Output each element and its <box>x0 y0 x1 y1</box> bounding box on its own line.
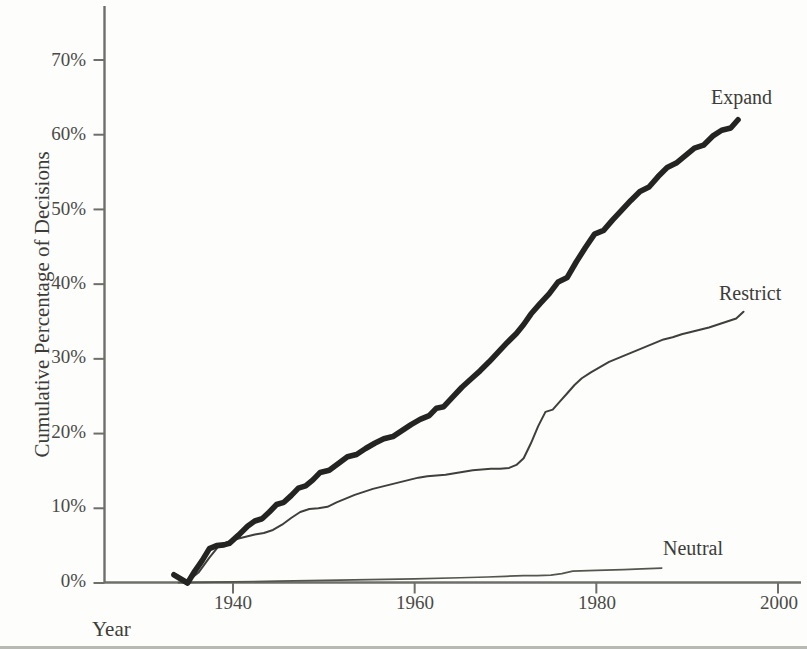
chart-page: Cumulative Percentage of Decisions Year … <box>0 0 807 649</box>
y-tick-label-0: 0% <box>10 570 86 592</box>
x-tick-label-1960: 1960 <box>396 592 434 614</box>
y-tick-label-30: 30% <box>10 346 86 368</box>
y-tick-label-10: 10% <box>10 495 86 517</box>
x-tick-label-2000: 2000 <box>760 592 798 614</box>
y-tick-label-50: 50% <box>10 198 86 220</box>
x-axis-title: Year <box>92 617 131 642</box>
series-line-restrict <box>174 312 744 582</box>
x-tick-label-1980: 1980 <box>578 592 616 614</box>
x-axis-ticks <box>233 583 778 594</box>
y-axis-title: Cumulative Percentage of Decisions <box>30 145 55 465</box>
series-label-neutral: Neutral <box>663 537 723 560</box>
x-tick-label-1940: 1940 <box>214 592 252 614</box>
series-line-neutral <box>179 568 662 583</box>
y-tick-label-60: 60% <box>10 123 86 145</box>
y-tick-label-70: 70% <box>10 49 86 71</box>
series-label-expand: Expand <box>711 86 772 109</box>
series-label-restrict: Restrict <box>719 282 781 305</box>
y-tick-label-40: 40% <box>10 272 86 294</box>
y-tick-label-20: 20% <box>10 421 86 443</box>
y-axis-ticks <box>94 60 105 583</box>
series-line-expand <box>174 120 738 583</box>
